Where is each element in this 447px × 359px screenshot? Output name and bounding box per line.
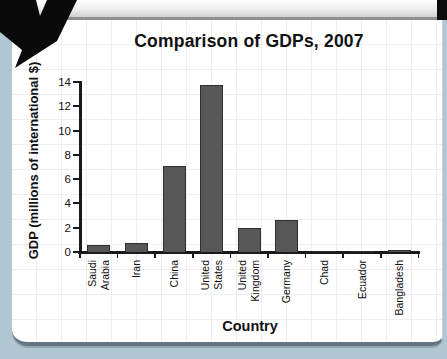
bar-ecuador	[351, 251, 374, 253]
bar-chad	[313, 251, 336, 253]
x-category-label: Germany	[280, 260, 293, 320]
y-tick-label: 4	[12, 196, 71, 210]
bar-germany	[275, 220, 298, 252]
y-tick-label: 8	[12, 148, 71, 162]
x-category-label: Ecuador	[356, 260, 369, 320]
x-category-label: Iran	[130, 260, 143, 320]
bar-iran	[125, 243, 148, 252]
y-tick-label: 12	[12, 99, 71, 113]
bar-saudi-arabia	[87, 245, 110, 252]
annotation-arrow-icon	[0, 0, 90, 78]
y-tick-mark	[73, 178, 79, 180]
x-tick-mark	[305, 254, 307, 258]
y-axis-line	[79, 81, 82, 252]
y-tick-label: 2	[12, 221, 71, 235]
bar-united-kingdom	[238, 228, 261, 252]
x-axis-title: Country	[80, 318, 420, 334]
x-category-label: United Kingdom	[236, 260, 262, 320]
y-tick-mark	[73, 154, 79, 156]
x-tick-mark	[267, 254, 269, 258]
y-tick-mark	[73, 202, 79, 204]
x-category-label: Chad	[318, 260, 331, 320]
top-right-corner-block	[437, 0, 447, 20]
bar-united-states	[200, 85, 223, 252]
x-category-label: Bangladesh	[393, 260, 406, 320]
screenshot-root: { "chart_data": { "type": "bar", "title"…	[0, 0, 447, 359]
y-tick-mark	[73, 105, 79, 107]
y-tick-mark	[73, 130, 79, 132]
x-category-label: United States	[199, 260, 225, 320]
x-tick-mark	[154, 254, 156, 258]
x-category-label: China	[168, 260, 181, 320]
y-tick-label: 6	[12, 172, 71, 186]
y-tick-mark	[73, 81, 79, 83]
y-tick-mark	[73, 227, 79, 229]
y-tick-label: 0	[12, 245, 71, 259]
y-tick-label: 10	[12, 124, 71, 138]
x-tick-mark	[380, 254, 382, 258]
x-tick-mark	[117, 254, 119, 258]
x-tick-mark	[79, 254, 81, 258]
x-tick-mark	[192, 254, 194, 258]
y-tick-mark	[73, 251, 79, 253]
x-category-label: Saudi Arabia	[86, 260, 112, 320]
x-tick-mark	[342, 254, 344, 258]
bar-china	[163, 166, 186, 252]
x-tick-mark	[418, 254, 420, 258]
x-tick-mark	[230, 254, 232, 258]
bar-bangladesh	[388, 250, 411, 252]
